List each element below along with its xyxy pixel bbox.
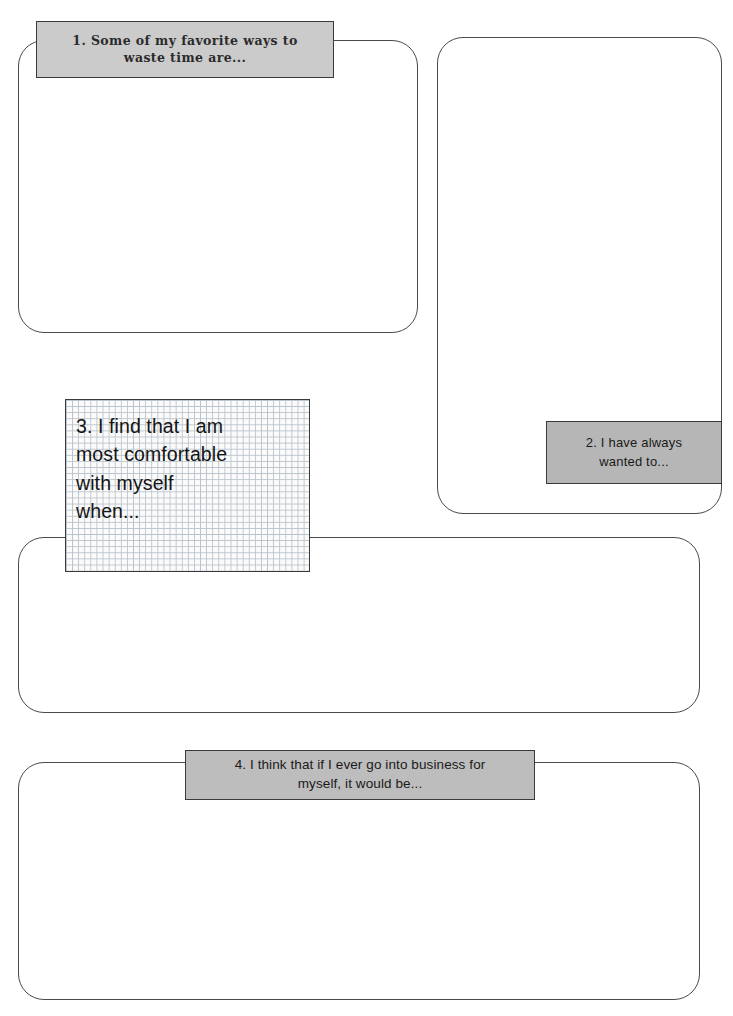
prompt-3-line-4: when... bbox=[76, 497, 299, 525]
prompt-label-2-lines: 2. I have always wanted to... bbox=[586, 434, 682, 472]
prompt-label-4: 4. I think that if I ever go into busine… bbox=[185, 750, 535, 800]
answer-box-1[interactable] bbox=[18, 40, 418, 333]
prompt-4-line-2: myself, it would be... bbox=[298, 776, 423, 791]
prompt-3-line-2: most comfortable bbox=[76, 440, 299, 468]
prompt-label-3: 3. I find that I am most comfortable wit… bbox=[65, 399, 310, 572]
prompt-3-line-3: with myself bbox=[76, 469, 299, 497]
prompt-label-2: 2. I have always wanted to... bbox=[546, 421, 722, 484]
prompt-1-line-2: waste time are... bbox=[124, 50, 247, 65]
worksheet-page: 1. Some of my favorite ways to waste tim… bbox=[0, 0, 733, 1016]
prompt-1-line-1: 1. Some of my favorite ways to bbox=[72, 33, 297, 48]
prompt-4-line-1: 4. I think that if I ever go into busine… bbox=[235, 757, 486, 772]
prompt-label-1-lines: 1. Some of my favorite ways to waste tim… bbox=[72, 33, 297, 66]
prompt-2-line-2: wanted to... bbox=[599, 454, 669, 469]
prompt-label-1: 1. Some of my favorite ways to waste tim… bbox=[36, 21, 334, 78]
prompt-label-4-lines: 4. I think that if I ever go into busine… bbox=[235, 756, 486, 794]
prompt-2-line-1: 2. I have always bbox=[586, 435, 682, 450]
prompt-3-line-1: 3. I find that I am bbox=[76, 412, 299, 440]
